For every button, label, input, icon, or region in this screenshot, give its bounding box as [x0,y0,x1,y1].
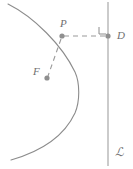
parabola-focus-directrix-figure: P D F ℒ [0,0,133,169]
point-p-label: P [60,18,67,29]
point-f-label: F [33,66,40,77]
directrix-label: ℒ [115,146,124,158]
point-d-label: D [117,30,125,41]
point-p-dot [59,33,64,38]
point-d-dot [105,33,110,38]
point-f-dot [44,75,49,80]
segment-pf-dashed [48,39,61,76]
right-angle-marker-icon [99,27,106,34]
parabola-curve [8,4,79,160]
